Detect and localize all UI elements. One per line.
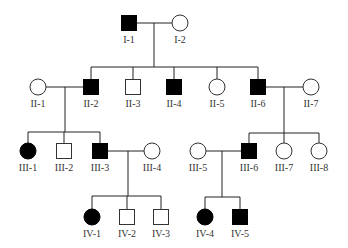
individual-label: II-4: [167, 98, 182, 109]
pedigree-labels: I-1I-2II-1II-2II-3II-4II-5II-6II-7III-1I…: [19, 34, 328, 239]
unaffected-female-symbol-ii-5: [209, 79, 225, 95]
individual-label: II-5: [210, 98, 225, 109]
unaffected-female-symbol-i-2: [172, 15, 188, 31]
individual-label: II-1: [31, 98, 46, 109]
affected-male-symbol-iv-5: [233, 210, 248, 225]
individual-label: II-7: [304, 98, 319, 109]
individual-label: III-2: [55, 162, 73, 173]
individual-label: III-5: [189, 162, 207, 173]
unaffected-female-symbol-iii-4: [144, 143, 160, 159]
unaffected-female-symbol-iii-5: [190, 143, 206, 159]
affected-male-symbol-ii-4: [167, 80, 182, 95]
affected-male-symbol-i-1: [122, 16, 137, 31]
affected-female-symbol-iv-4: [197, 209, 213, 225]
unaffected-male-symbol-iv-2: [120, 210, 135, 225]
unaffected-male-symbol-ii-3: [126, 80, 141, 95]
unaffected-female-symbol-ii-7: [303, 79, 319, 95]
individual-label: III-8: [310, 162, 328, 173]
individual-label: IV-4: [196, 228, 214, 239]
individual-label: IV-3: [152, 228, 170, 239]
individual-label: IV-1: [83, 228, 101, 239]
affected-female-symbol-iv-1: [84, 209, 100, 225]
affected-male-symbol-iii-3: [93, 144, 108, 159]
individual-label: IV-2: [118, 228, 136, 239]
individual-label: IV-5: [231, 228, 249, 239]
unaffected-female-symbol-ii-1: [30, 79, 46, 95]
individual-label: III-6: [240, 162, 258, 173]
affected-male-symbol-iii-6: [242, 144, 257, 159]
pedigree-lines: [28, 23, 319, 210]
pedigree-symbols: [20, 15, 327, 225]
individual-label: II-2: [84, 98, 99, 109]
individual-label: III-1: [19, 162, 37, 173]
affected-male-symbol-ii-2: [84, 80, 99, 95]
pedigree-chart: I-1I-2II-1II-2II-3II-4II-5II-6II-7III-1I…: [0, 0, 348, 248]
unaffected-female-symbol-iii-8: [311, 143, 327, 159]
individual-label: I-1: [123, 34, 135, 45]
individual-label: II-3: [126, 98, 141, 109]
individual-label: III-4: [143, 162, 161, 173]
unaffected-female-symbol-iii-7: [276, 143, 292, 159]
individual-label: I-2: [174, 34, 186, 45]
unaffected-male-symbol-iii-2: [57, 144, 72, 159]
individual-label: II-6: [251, 98, 266, 109]
unaffected-male-symbol-iv-3: [154, 210, 169, 225]
individual-label: III-3: [91, 162, 109, 173]
affected-female-symbol-iii-1: [20, 143, 36, 159]
affected-male-symbol-ii-6: [251, 80, 266, 95]
individual-label: III-7: [275, 162, 293, 173]
